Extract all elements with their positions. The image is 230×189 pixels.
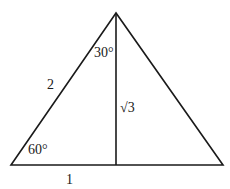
top-angle-label: 30° <box>94 46 114 60</box>
bottom-angle-label: 60° <box>28 143 48 157</box>
half-base-label: 1 <box>66 173 73 187</box>
altitude-label: √3 <box>120 101 135 115</box>
diagram-canvas: 30° 2 √3 60° 1 <box>0 0 230 189</box>
triangle-figure <box>0 0 230 189</box>
hypotenuse-label: 2 <box>47 78 54 92</box>
